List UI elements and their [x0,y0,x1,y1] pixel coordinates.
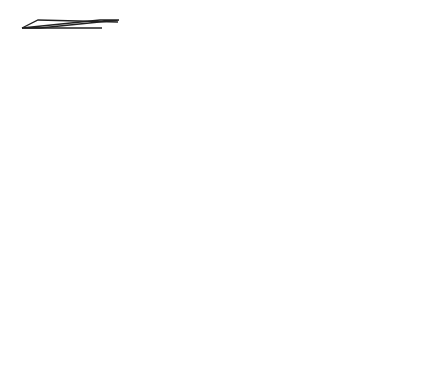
node-1[interactable] [22,20,119,28]
deployment-diagram [0,0,436,375]
diagram-canvas [0,0,436,375]
